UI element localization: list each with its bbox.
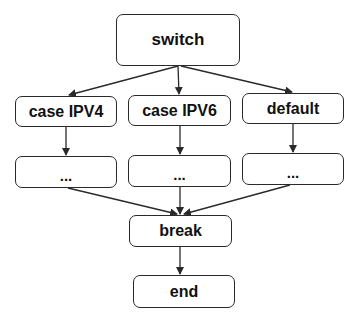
edge-switch-ipv6 [178, 66, 179, 94]
default-label: default [267, 100, 319, 118]
break-label: break [159, 222, 202, 240]
switch-label: switch [152, 30, 205, 50]
break-node: break [129, 215, 232, 247]
edge-switch-default [181, 66, 292, 92]
edge-switch-ipv4 [69, 66, 178, 95]
ipv4-body-node: ... [15, 156, 117, 188]
case-ipv6-node: case IPV6 [128, 95, 231, 126]
ipv4-body-label: ... [60, 167, 73, 184]
case-ipv6-label: case IPV6 [142, 102, 217, 120]
ipv6-body-label: ... [173, 166, 186, 183]
default-node: default [242, 93, 344, 124]
end-label: end [170, 283, 198, 301]
edge-body1-break [68, 188, 177, 214]
case-ipv4-node: case IPV4 [15, 96, 117, 127]
edge-body3-break [184, 185, 290, 214]
default-body-label: ... [287, 164, 300, 181]
case-ipv4-label: case IPV4 [29, 103, 104, 121]
ipv6-body-node: ... [128, 155, 231, 187]
default-body-node: ... [242, 153, 344, 185]
switch-node: switch [116, 14, 240, 66]
end-node: end [133, 275, 235, 308]
